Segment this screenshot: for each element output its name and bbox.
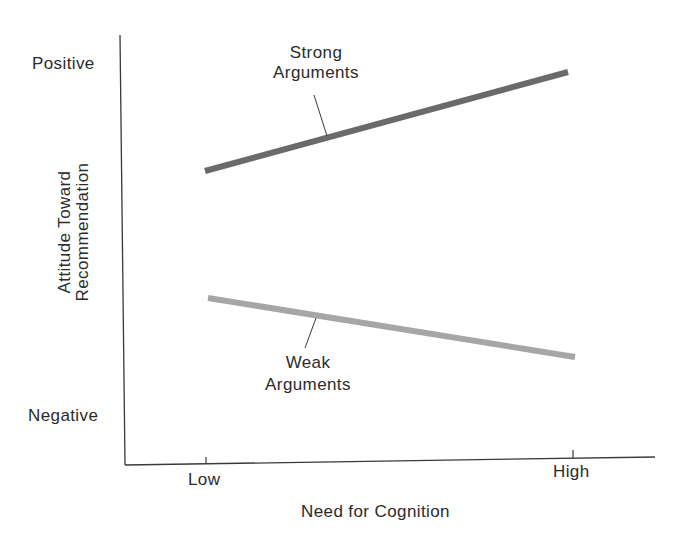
x-tick-label-high: High — [553, 462, 590, 482]
series-line-weak-arguments — [208, 298, 575, 357]
annotation-strong-line-1: Strong — [256, 43, 376, 63]
y-axis-label-line-2: Recommendation — [74, 163, 92, 302]
y-tick-label-positive: Positive — [32, 54, 95, 74]
annotation-weak-arguments: Weak Arguments — [248, 352, 368, 396]
series-line-strong-arguments — [205, 72, 568, 171]
y-axis-label-line-1: Attitude Toward — [56, 163, 74, 302]
annotation-strong-line-2: Arguments — [256, 63, 376, 83]
annotation-weak-line-1: Weak — [248, 352, 368, 374]
x-tick-label-low: Low — [188, 470, 220, 490]
leader-line-strong — [314, 95, 327, 136]
annotation-strong-arguments: Strong Arguments — [256, 43, 376, 83]
annotation-weak-line-2: Arguments — [248, 374, 368, 396]
y-tick-label-negative: Negative — [28, 406, 98, 426]
x-axis-label: Need for Cognition — [301, 502, 450, 522]
y-axis-line — [120, 35, 125, 465]
leader-line-weak — [305, 318, 316, 348]
y-axis-label: Attitude Toward Recommendation — [56, 163, 92, 302]
